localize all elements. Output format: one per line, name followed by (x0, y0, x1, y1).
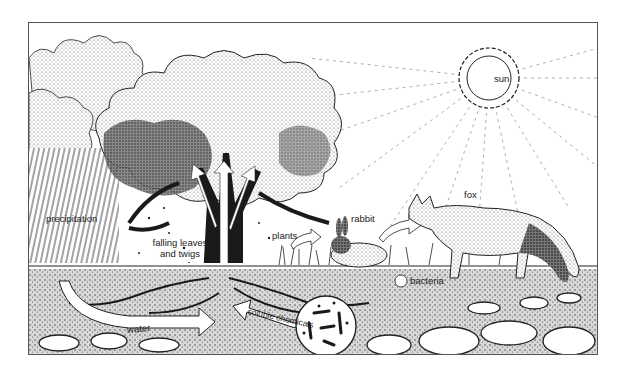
sun-icon (309, 48, 598, 228)
plants-label: plants (272, 230, 297, 241)
diagram-frame: sun fox rabbit plants precipitation fall… (28, 22, 598, 355)
ecosystem-illustration (29, 23, 598, 355)
falling-leaves-label-line2: and twigs (140, 248, 220, 259)
falling-leaves-label: falling leaves and twigs (140, 237, 220, 259)
bacteria-label: bacteria (410, 275, 444, 286)
sun-label: sun (494, 73, 509, 84)
precipitation-label: precipitation (46, 213, 97, 224)
fox-label: fox (464, 189, 477, 200)
bacteria-small-icon (395, 275, 407, 287)
falling-leaves-label-line1: falling leaves (140, 237, 220, 248)
rabbit-label: rabbit (351, 213, 375, 224)
precipitation-rain (29, 148, 119, 266)
water-label: water (127, 322, 151, 335)
